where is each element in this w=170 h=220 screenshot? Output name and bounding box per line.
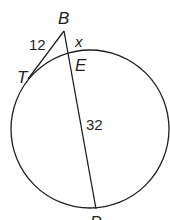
external-length-label: x — [74, 33, 83, 50]
tangent-secant-diagram: B T E P 12 x 32 — [0, 0, 170, 220]
point-label-p: P — [90, 213, 102, 220]
tangent-length-label: 12 — [29, 36, 46, 53]
chord-length-label: 32 — [86, 116, 103, 133]
point-label-e: E — [75, 56, 87, 75]
point-label-t: T — [17, 68, 29, 87]
point-label-b: B — [58, 9, 69, 28]
